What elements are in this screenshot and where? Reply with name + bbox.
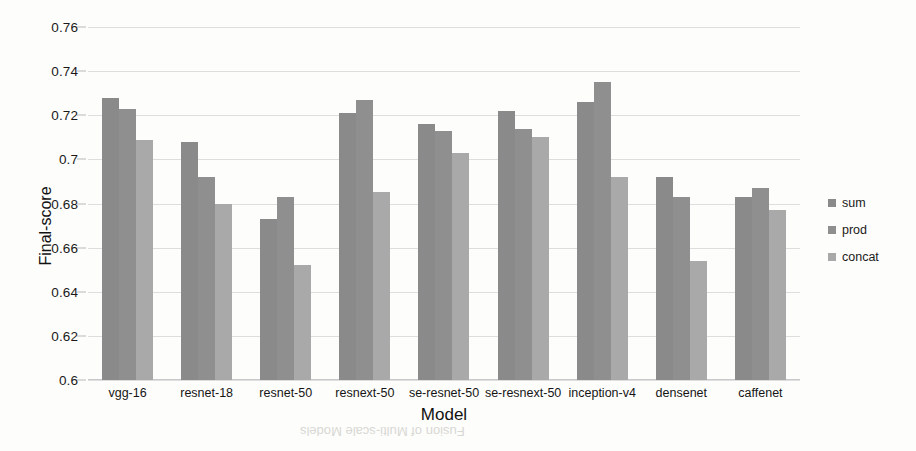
bar [435, 131, 452, 380]
bar-group [563, 27, 642, 380]
y-tick-label: 0.64 [0, 284, 78, 299]
bar [294, 265, 311, 380]
bar [673, 197, 690, 380]
bar [577, 102, 594, 380]
bar [515, 129, 532, 381]
bar-group [246, 27, 325, 380]
x-tick-label: resnet-50 [259, 386, 312, 400]
bar-group [88, 27, 167, 380]
x-tick-label: caffenet [738, 386, 782, 400]
x-tick-label: vgg-16 [108, 386, 146, 400]
bar-group [325, 27, 404, 380]
bar-chart: Fusion of Multi-scale Models Final-score… [0, 0, 916, 451]
bar-group [642, 27, 721, 380]
bar [181, 142, 198, 380]
y-tick-mark [77, 27, 86, 28]
legend-item-label: sum [842, 196, 866, 210]
y-tick-mark [77, 291, 86, 292]
y-tick-mark [77, 115, 86, 116]
x-tick-label: resnext-50 [335, 386, 394, 400]
y-tick-label: 0.62 [0, 328, 78, 343]
legend-item-label: prod [842, 223, 867, 237]
legend-item[interactable]: prod [828, 223, 879, 237]
bar-group [484, 27, 563, 380]
bar-group [721, 27, 800, 380]
y-tick-mark [77, 380, 86, 381]
bar [498, 111, 515, 380]
legend-swatch-icon [828, 199, 836, 207]
gridline [88, 380, 800, 381]
y-tick-label: 0.74 [0, 64, 78, 79]
bar [752, 188, 769, 380]
legend-swatch-icon [828, 253, 836, 261]
y-tick-mark [77, 203, 86, 204]
x-axis-title: Model [88, 405, 800, 425]
bar [260, 219, 277, 380]
legend-swatch-icon [828, 226, 836, 234]
y-tick-label: 0.76 [0, 20, 78, 35]
legend-item-label: concat [842, 250, 879, 264]
bar [594, 82, 611, 380]
x-tick-label: densenet [656, 386, 707, 400]
y-tick-label: 0.66 [0, 240, 78, 255]
legend: sumprodconcat [828, 196, 879, 264]
y-tick-label: 0.72 [0, 108, 78, 123]
x-tick-label: se-resnext-50 [485, 386, 561, 400]
bar [418, 124, 435, 380]
bar [690, 261, 707, 380]
bar [611, 177, 628, 380]
bar [102, 98, 119, 380]
y-tick-label: 0.6 [0, 373, 78, 388]
bar [198, 177, 215, 380]
x-tick-label: resnet-18 [180, 386, 233, 400]
y-tick-label: 0.68 [0, 196, 78, 211]
bar [532, 137, 549, 380]
bar-group [404, 27, 483, 380]
legend-item[interactable]: concat [828, 250, 879, 264]
y-tick-label: 0.7 [0, 152, 78, 167]
y-tick-mark [77, 247, 86, 248]
bar [277, 197, 294, 380]
legend-item[interactable]: sum [828, 196, 879, 210]
plot-area [88, 27, 800, 380]
bar [452, 153, 469, 380]
y-tick-mark [77, 159, 86, 160]
x-tick-label: inception-v4 [569, 386, 636, 400]
bar [119, 109, 136, 380]
bar [656, 177, 673, 380]
y-tick-mark [77, 71, 86, 72]
bar [215, 204, 232, 381]
y-tick-mark [77, 335, 86, 336]
bar [136, 140, 153, 380]
bar [356, 100, 373, 380]
bar [769, 210, 786, 380]
x-tick-label: se-resnet-50 [409, 386, 479, 400]
bar [735, 197, 752, 380]
bar [339, 113, 356, 380]
bar-group [167, 27, 246, 380]
scan-bleed-caption: Fusion of Multi-scale Models [300, 424, 465, 439]
bar [373, 192, 390, 380]
